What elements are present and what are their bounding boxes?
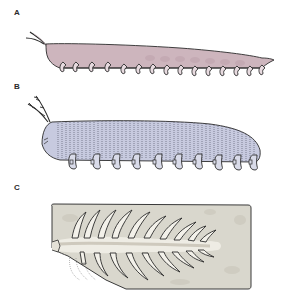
panel-a-worm (26, 32, 274, 76)
figure-illustration (0, 0, 284, 300)
panel-c-fossil-slab (52, 204, 251, 289)
panel-b-worm (28, 96, 260, 170)
